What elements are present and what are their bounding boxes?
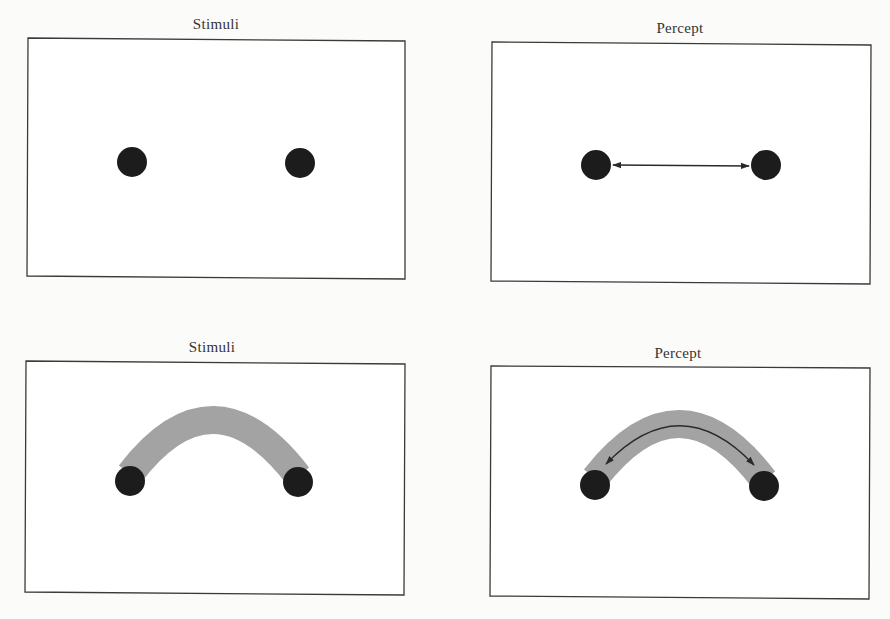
- panel-percept-top: [491, 42, 871, 284]
- dot-right: [751, 150, 781, 180]
- diagram-canvas: [0, 0, 890, 619]
- panel-frame: [27, 38, 405, 279]
- panel-percept-bottom: [490, 366, 870, 599]
- dot-left: [581, 150, 611, 180]
- panel-stimuli-bottom: [25, 361, 405, 595]
- dot-right: [749, 471, 779, 501]
- dot-right: [285, 148, 315, 178]
- dot-right: [283, 467, 313, 497]
- panel-frame: [490, 366, 870, 599]
- panel-frame: [25, 361, 405, 595]
- dot-left: [117, 147, 147, 177]
- panel-frame: [491, 42, 871, 284]
- panel-stimuli-top: [27, 38, 405, 279]
- dot-left: [580, 470, 610, 500]
- dot-left: [115, 466, 145, 496]
